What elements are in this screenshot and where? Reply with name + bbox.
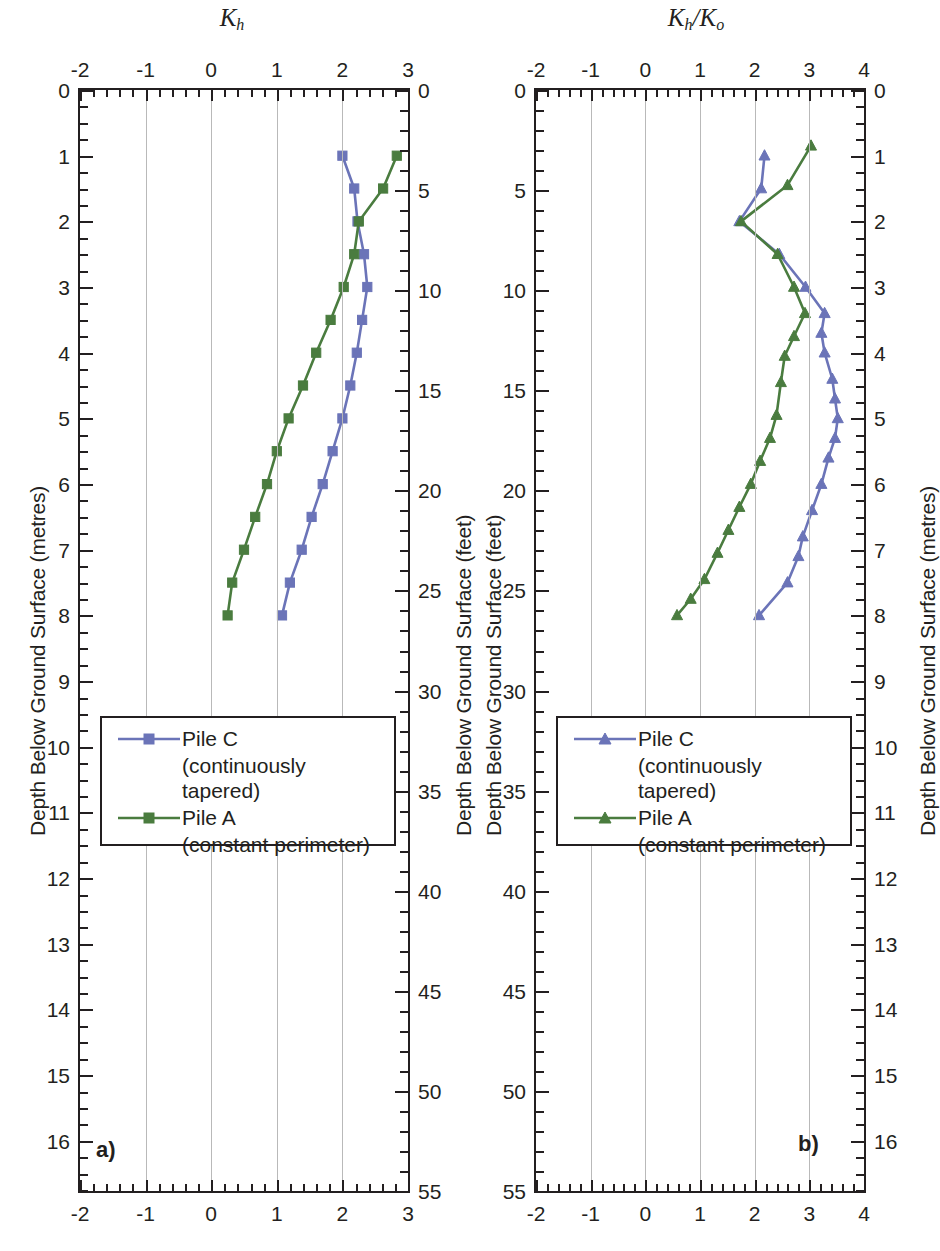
x-tick-label-bottom: 3 — [803, 1203, 815, 1224]
data-point-marker — [755, 455, 766, 465]
y-tick-left — [80, 254, 88, 256]
y-tick-right — [400, 1031, 408, 1033]
y-tick-left — [536, 991, 549, 993]
x-tick-label-bottom: 0 — [639, 1203, 651, 1224]
y-tick-left — [80, 1124, 88, 1126]
y-tick-left — [536, 971, 544, 973]
data-point-marker — [297, 545, 306, 554]
x-tick — [842, 1184, 844, 1191]
y-tick-left — [536, 791, 549, 793]
x-tick — [277, 90, 279, 101]
gridline — [809, 90, 810, 1191]
x-tick — [356, 90, 358, 97]
y-tick-right — [856, 960, 864, 962]
y-tick-label-right: 0 — [418, 80, 430, 101]
y-tick-left — [80, 1108, 88, 1110]
panel-b-plot-area — [534, 88, 866, 1193]
data-point-marker — [350, 250, 359, 259]
y-tick-right — [851, 353, 864, 355]
y-tick-left — [536, 230, 544, 232]
panel-b-right-axis-label: Depth Below Ground Surface (metres) — [916, 485, 940, 835]
y-tick-left — [80, 960, 88, 962]
x-tick — [119, 90, 121, 97]
x-tick — [689, 90, 691, 97]
x-tick — [798, 1184, 800, 1191]
x-tick — [722, 1184, 724, 1191]
y-tick-right — [400, 150, 408, 152]
data-point-marker — [354, 217, 363, 226]
y-tick-label-right: 20 — [418, 480, 441, 501]
x-tick — [711, 90, 713, 97]
y-tick-right — [851, 615, 864, 617]
y-tick-label-left: 3 — [58, 277, 70, 298]
y-tick-right — [395, 991, 408, 993]
y-tick-right — [395, 1191, 408, 1193]
y-tick-right — [400, 771, 408, 773]
x-tick-label-bottom: -2 — [71, 1203, 90, 1224]
y-tick-right — [856, 796, 864, 798]
y-tick-right — [856, 862, 864, 864]
y-tick-left — [80, 402, 88, 404]
y-tick-right — [400, 510, 408, 512]
x-tick — [700, 90, 702, 101]
y-tick-left — [536, 630, 544, 632]
y-tick-left — [80, 599, 88, 601]
x-tick — [132, 90, 134, 97]
y-tick-right — [856, 665, 864, 667]
data-point-marker — [759, 150, 770, 160]
y-tick-right — [400, 430, 408, 432]
x-tick — [132, 1184, 134, 1191]
y-tick-right — [400, 951, 408, 953]
y-tick-left — [80, 1075, 93, 1077]
y-tick-label-right: 5 — [874, 408, 886, 429]
y-tick-left — [536, 330, 544, 332]
x-tick — [613, 90, 615, 97]
x-tick — [119, 1184, 121, 1191]
y-tick-left — [536, 1031, 544, 1033]
x-tick — [798, 90, 800, 97]
y-tick-right — [851, 944, 864, 946]
data-point-marker — [830, 432, 841, 442]
data-point-marker — [285, 578, 294, 587]
y-tick-left — [536, 771, 544, 773]
y-tick-left — [80, 829, 88, 831]
x-tick — [755, 1180, 757, 1191]
y-tick-left — [80, 714, 88, 716]
y-tick-right — [851, 418, 864, 420]
y-tick-right — [856, 714, 864, 716]
y-tick-label-left: 4 — [58, 342, 70, 363]
x-tick-label-top: -2 — [527, 59, 546, 80]
legend-label: Pile A — [182, 805, 236, 830]
x-tick — [290, 1184, 292, 1191]
gridline — [146, 90, 147, 1191]
y-tick-left — [80, 287, 93, 289]
y-tick-right — [856, 583, 864, 585]
y-tick-left — [536, 210, 544, 212]
x-tick — [93, 1184, 95, 1191]
x-tick — [744, 1184, 746, 1191]
data-point-marker — [262, 480, 271, 489]
x-tick-label-bottom: 1 — [694, 1203, 706, 1224]
y-tick-label-right: 55 — [418, 1181, 441, 1202]
y-tick-left — [80, 369, 88, 371]
data-point-marker — [712, 547, 723, 557]
y-tick-left — [80, 878, 93, 880]
y-tick-label-right: 15 — [418, 380, 441, 401]
x-tick — [831, 1184, 833, 1191]
panel-a-legend: Pile C(continuously tapered)Pile A(const… — [100, 716, 396, 846]
y-tick-left — [536, 350, 544, 352]
x-tick — [809, 90, 811, 101]
x-tick — [251, 90, 253, 97]
y-tick-left — [536, 550, 544, 552]
data-point-marker — [782, 577, 793, 587]
x-tick-label-bottom: 1 — [271, 1203, 283, 1224]
y-tick-right — [400, 731, 408, 733]
x-tick-label-top: -1 — [581, 59, 600, 80]
y-tick-label-right: 0 — [874, 80, 886, 101]
y-tick-right — [400, 751, 408, 753]
x-tick — [656, 90, 658, 97]
y-tick-left — [536, 731, 544, 733]
data-point-marker — [392, 151, 401, 160]
x-tick-label-bottom: 2 — [749, 1203, 761, 1224]
x-tick — [634, 1184, 636, 1191]
